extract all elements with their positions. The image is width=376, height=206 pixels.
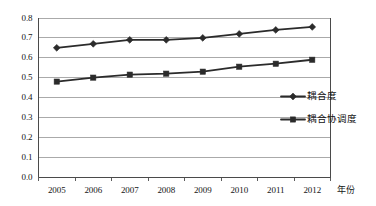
y-axis-tick-label: 0.2 <box>9 133 33 142</box>
y-axis-tick-label: 0.7 <box>9 33 33 42</box>
y-axis-tick-label: 0.5 <box>9 73 33 82</box>
y-axis-tick-label: 0.1 <box>9 153 33 162</box>
y-axis-tick-label: 0.0 <box>9 173 33 182</box>
y-axis-tick-label: 0.6 <box>9 53 33 62</box>
y-axis-tick-label: 0.8 <box>9 14 33 23</box>
y-axis-tick-label: 0.3 <box>9 113 33 122</box>
legend-label-2: 耦合协调度 <box>307 114 357 124</box>
x-axis-tick-label: 2005 <box>40 186 74 195</box>
legend-label-1: 耦合度 <box>307 91 337 101</box>
x-axis-tick-label: 2011 <box>259 186 293 195</box>
x-axis-tick-label: 2008 <box>149 186 183 195</box>
x-axis-title: 年份 <box>337 186 355 195</box>
line-chart <box>0 0 376 206</box>
x-axis-tick-label: 2006 <box>76 186 110 195</box>
x-axis-tick-label: 2012 <box>295 186 329 195</box>
x-axis-tick-label: 2010 <box>222 186 256 195</box>
chart-background <box>0 0 376 206</box>
y-axis-tick-label: 0.4 <box>9 93 33 102</box>
x-axis-tick-label: 2007 <box>113 186 147 195</box>
x-axis-tick-label: 2009 <box>186 186 220 195</box>
